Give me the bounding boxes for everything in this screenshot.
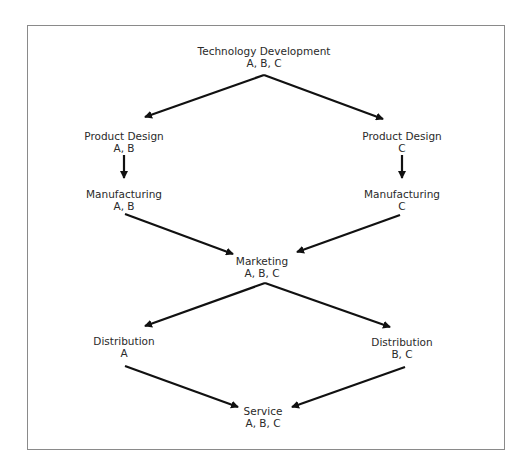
node-products: A, B: [84, 142, 163, 154]
flow-arrows: [0, 0, 532, 473]
node-title: Distribution: [93, 335, 154, 347]
node-products: A: [93, 347, 154, 359]
node-title: Distribution: [371, 336, 432, 348]
arrow-mkt-to-dist-bc: [265, 283, 390, 327]
node-product-design-ab: Product Design A, B: [84, 130, 163, 154]
node-service: Service A, B, C: [244, 405, 283, 429]
arrow-mkt-to-dist-a: [145, 283, 265, 326]
node-products: A, B: [86, 200, 162, 212]
node-title: Product Design: [84, 130, 163, 142]
node-manufacturing-ab: Manufacturing A, B: [86, 188, 162, 212]
node-technology-development: Technology Development A, B, C: [198, 45, 331, 69]
node-title: Product Design: [362, 130, 441, 142]
node-marketing: Marketing A, B, C: [236, 255, 288, 279]
node-products: A, B, C: [198, 57, 331, 69]
node-products: A, B, C: [236, 267, 288, 279]
arrow-mfg-c-to-mkt: [297, 215, 400, 252]
node-manufacturing-c: Manufacturing C: [364, 188, 440, 212]
node-distribution-bc: Distribution B, C: [371, 336, 432, 360]
arrow-tech-to-pd-c: [264, 75, 383, 119]
node-products: C: [362, 142, 441, 154]
node-distribution-a: Distribution A: [93, 335, 154, 359]
node-products: C: [364, 200, 440, 212]
node-title: Manufacturing: [86, 188, 162, 200]
node-title: Technology Development: [198, 45, 331, 57]
node-products: B, C: [371, 348, 432, 360]
node-product-design-c: Product Design C: [362, 130, 441, 154]
node-products: A, B, C: [244, 417, 283, 429]
node-title: Marketing: [236, 255, 288, 267]
node-title: Service: [244, 405, 283, 417]
arrow-tech-to-pd-ab: [145, 75, 264, 117]
arrow-mfg-ab-to-mkt: [125, 214, 233, 254]
arrow-dist-bc-to-svc: [292, 367, 405, 407]
node-title: Manufacturing: [364, 188, 440, 200]
arrow-dist-a-to-svc: [125, 366, 238, 407]
